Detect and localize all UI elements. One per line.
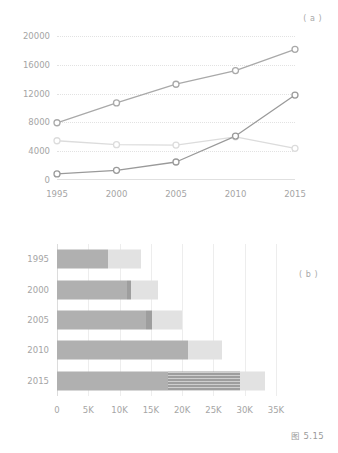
bar-segment-segment-2	[168, 371, 240, 390]
bar-segment-segment-3	[152, 311, 181, 330]
x-axis-tick-label: 1995	[46, 189, 68, 199]
bar-row[interactable]	[57, 371, 276, 390]
data-point-marker	[292, 145, 298, 151]
y-axis-tick-label: 20000	[23, 31, 50, 41]
bar-segment-segment-1	[57, 341, 188, 360]
y-axis-tick-label: 0	[45, 175, 50, 185]
panel-a-line-chart: ( a ) 0400080001200016000200001995200020…	[0, 0, 338, 222]
x-axis-tick-label: 0	[54, 405, 59, 415]
x-axis-tick-label: 30K	[237, 405, 253, 415]
y-axis-tick-label: 16000	[23, 60, 50, 70]
bar-row[interactable]	[57, 341, 276, 360]
bar-category-label: 2000	[27, 285, 49, 295]
y-axis-tick-label: 4000	[28, 146, 50, 156]
y-axis-tick-label: 12000	[23, 89, 50, 99]
figure-5-15: ( a ) 0400080001200016000200001995200020…	[0, 0, 338, 453]
bar-row[interactable]	[57, 250, 276, 269]
bar-segment-segment-1	[57, 371, 168, 390]
bar-category-label: 1995	[27, 254, 49, 264]
x-axis-tick-label: 2010	[225, 189, 247, 199]
bar-chart-plot-area: 05K10K15K20K25K30K35K1995200020052010201…	[57, 244, 276, 396]
data-point-marker	[173, 142, 179, 148]
x-axis-tick-label: 10K	[111, 405, 127, 415]
data-point-marker	[114, 100, 120, 106]
x-axis-tick-label: 2015	[284, 189, 306, 199]
data-point-marker	[54, 171, 60, 177]
bar-segment-segment-1	[57, 250, 108, 269]
bar-category-label: 2015	[27, 376, 49, 386]
data-point-marker	[173, 159, 179, 165]
data-point-marker	[54, 138, 60, 144]
x-axis-tick-label: 20K	[174, 405, 190, 415]
panel-b-label: ( b )	[299, 270, 318, 279]
figure-caption: 图 5.15	[291, 429, 324, 441]
line-series-group	[57, 36, 295, 180]
bar-row[interactable]	[57, 311, 276, 330]
data-point-marker	[233, 68, 239, 74]
x-axis-tick-label: 2005	[165, 189, 187, 199]
x-axis-tick-label: 2000	[106, 189, 128, 199]
x-axis-tick-label: 5K	[83, 405, 94, 415]
data-point-marker	[173, 81, 179, 87]
bar-category-label: 2010	[27, 345, 49, 355]
x-axis-tick-label: 25K	[205, 405, 221, 415]
gridline-x	[276, 244, 277, 396]
bar-category-label: 2005	[27, 315, 49, 325]
data-point-marker	[114, 167, 120, 173]
y-axis-tick-label: 8000	[28, 117, 50, 127]
data-point-marker	[292, 92, 298, 98]
bar-segment-segment-3	[240, 371, 264, 390]
data-point-marker	[292, 46, 298, 52]
bar-segment-segment-3	[131, 280, 158, 299]
panel-b-bar-chart: ( b ) 05K10K15K20K25K30K35K1995200020052…	[0, 222, 338, 453]
x-axis-tick-label: 35K	[268, 405, 284, 415]
data-point-marker	[54, 120, 60, 126]
bar-segment-segment-1	[57, 280, 127, 299]
bar-segment-segment-3	[188, 341, 222, 360]
bar-row[interactable]	[57, 280, 276, 299]
bar-segment-segment-1	[57, 311, 146, 330]
data-point-marker	[233, 133, 239, 139]
panel-a-label: ( a )	[303, 14, 322, 23]
data-point-marker	[114, 142, 120, 148]
bar-segment-segment-3	[108, 250, 141, 269]
line-chart-plot-area: 0400080001200016000200001995200020052010…	[57, 36, 295, 180]
x-axis-tick-label: 15K	[143, 405, 159, 415]
